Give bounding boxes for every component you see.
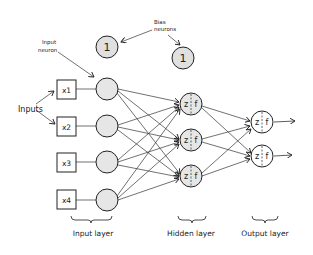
hidden-3-f: f bbox=[195, 172, 198, 181]
input-x1: x1 bbox=[62, 86, 71, 95]
bias-pointer-2 bbox=[168, 35, 180, 45]
hidden-1-z: z bbox=[184, 100, 188, 109]
layer-braces bbox=[71, 216, 278, 223]
input-neuron-pointer bbox=[58, 52, 94, 77]
hidden-2-z: z bbox=[184, 136, 188, 145]
input-boxes: x1 x2 x3 x4 bbox=[57, 80, 76, 209]
input-neurons bbox=[96, 78, 118, 211]
hidden-layer-label: Hidden layer bbox=[167, 229, 216, 238]
input-neuron-annotation-1: Input bbox=[42, 39, 57, 46]
output-1-f: f bbox=[266, 118, 269, 127]
bias-annotation-1: Bias bbox=[154, 19, 166, 25]
output-neurons: z f z f bbox=[251, 111, 273, 167]
input-hidden-connections bbox=[117, 89, 180, 200]
bias-2-label: 1 bbox=[180, 52, 187, 65]
input-neuron-annotation-2: neuron bbox=[38, 47, 58, 53]
output-arrows bbox=[274, 121, 295, 156]
output-2-f: f bbox=[266, 152, 269, 161]
hidden-1-f: f bbox=[195, 100, 198, 109]
hidden-output-connections bbox=[202, 106, 251, 176]
hidden-3-z: z bbox=[184, 172, 188, 181]
bias-neurons: 1 1 bbox=[96, 36, 194, 69]
box-to-neuron-arrows bbox=[76, 89, 104, 200]
input-x3: x3 bbox=[62, 159, 71, 168]
bias-1-label: 1 bbox=[104, 41, 111, 54]
input-layer-label: Input layer bbox=[73, 229, 115, 238]
output-2-z: z bbox=[255, 152, 259, 161]
input-x4: x4 bbox=[62, 196, 71, 205]
output-layer-label: Output layer bbox=[241, 229, 289, 238]
hidden-2-f: f bbox=[195, 136, 198, 145]
bias-pointer-1 bbox=[121, 30, 152, 42]
output-1-z: z bbox=[255, 118, 259, 127]
hidden-neurons: z f z f z f bbox=[180, 93, 202, 187]
bias-annotation-2: neurons bbox=[154, 26, 176, 32]
input-x2: x2 bbox=[62, 123, 71, 132]
neural-network-diagram: Inputs x1 x2 x3 x4 1 1 Input neuron Bias… bbox=[0, 0, 313, 255]
